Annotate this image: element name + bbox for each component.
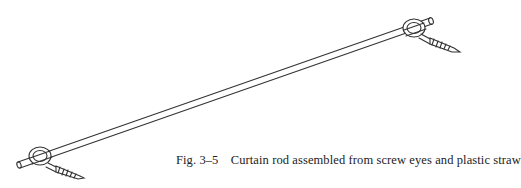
- left-screw-eye: [29, 147, 84, 179]
- rod: [16, 17, 434, 169]
- figure-caption: Fig. 3–5 Curtain rod assembled from scre…: [176, 153, 521, 168]
- figure-caption-text: Curtain rod assembled from screw eyes an…: [231, 153, 521, 167]
- figure-label: Fig. 3–5: [176, 153, 218, 167]
